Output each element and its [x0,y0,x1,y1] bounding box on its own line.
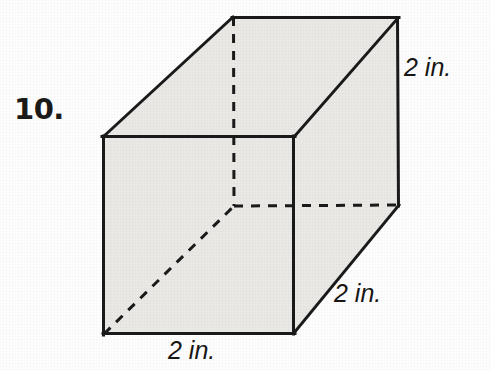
dimension-label-height: 2 in. [404,55,451,80]
figure-page: 10. 2 in. 2 in. 2 in. [0,0,491,370]
cube-face-front [103,137,294,334]
dimension-label-width: 2 in. [168,338,215,363]
dimension-label-depth: 2 in. [334,281,381,306]
problem-number: 10. [14,95,64,124]
edge-back-right-vertical [398,18,399,206]
